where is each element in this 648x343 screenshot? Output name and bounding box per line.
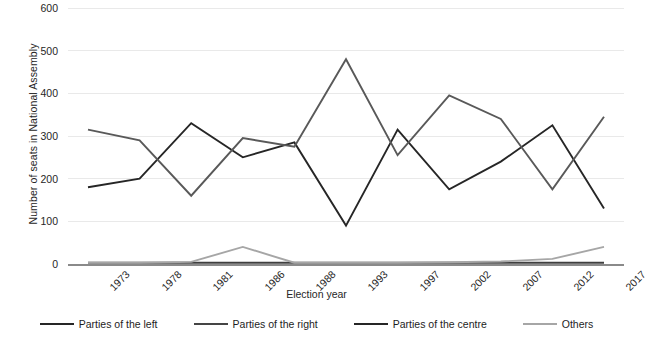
legend-line-swatch [523, 323, 557, 325]
y-axis-tick-label: 0 [18, 258, 58, 270]
legend-item[interactable]: Others [523, 318, 594, 330]
series-line-parties-of-the-right [88, 59, 604, 196]
series-lines [68, 8, 624, 264]
plot-area [68, 8, 624, 264]
x-axis-title: Election year [0, 288, 633, 300]
series-line-others [88, 247, 604, 263]
legend-item[interactable]: Parties of the right [194, 318, 318, 330]
y-axis-tick-label: 500 [18, 45, 58, 57]
x-axis-line [68, 264, 624, 266]
legend-label: Parties of the right [233, 318, 318, 330]
legend-label: Others [562, 318, 594, 330]
y-axis-tick-label: 200 [18, 173, 58, 185]
legend-label: Parties of the centre [393, 318, 487, 330]
y-axis-tick-label: 400 [18, 87, 58, 99]
legend-item[interactable]: Parties of the centre [354, 318, 487, 330]
legend-line-swatch [354, 323, 388, 325]
legend-item[interactable]: Parties of the left [40, 318, 158, 330]
chart-legend: Parties of the leftParties of the rightP… [0, 318, 633, 330]
y-axis-tick-label: 300 [18, 130, 58, 142]
legend-line-swatch [40, 323, 74, 325]
y-axis-tick-label: 600 [18, 2, 58, 14]
legend-line-swatch [194, 323, 228, 325]
legend-label: Parties of the left [79, 318, 158, 330]
series-line-parties-of-the-left [88, 123, 604, 225]
y-axis-tick-label: 100 [18, 215, 58, 227]
